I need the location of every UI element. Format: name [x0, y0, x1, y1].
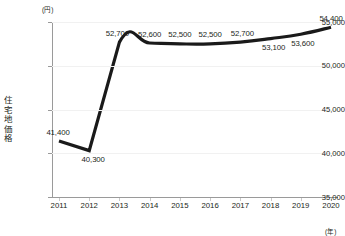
value-label-2018: 53,100: [262, 43, 285, 52]
y-tick-50000: [48, 66, 52, 67]
value-label-2011: 41,400: [46, 128, 69, 137]
y-tick-40000: [48, 153, 52, 154]
x-tick-label-2017: 2017: [232, 201, 249, 210]
x-tick-label-2011: 2011: [51, 201, 68, 210]
value-label-2012: 40,300: [82, 155, 105, 164]
y-tick-label-45000: 45,000: [299, 105, 345, 114]
y-tick-45000: [48, 110, 52, 111]
x-tick-label-2018: 2018: [262, 201, 279, 210]
x-tick-label-2016: 2016: [201, 201, 218, 210]
value-label-2014: 52,600: [138, 30, 161, 39]
x-tick-label-2012: 2012: [81, 201, 98, 210]
line-chart: (円) (年) 住宅地価格 35,00040,00045,00050,00055…: [0, 0, 345, 236]
gridline-55000: [52, 22, 338, 23]
y-tick-55000: [48, 22, 52, 23]
x-tick-label-2014: 2014: [141, 201, 158, 210]
x-tick-label-2015: 2015: [171, 201, 188, 210]
value-label-2015: 52,500: [168, 30, 191, 39]
x-tick-label-2019: 2019: [292, 201, 309, 210]
y-axis-title-char-4: 格: [2, 134, 14, 144]
x-axis-unit-label: (年): [325, 226, 336, 236]
x-tick-label-2013: 2013: [111, 201, 128, 210]
y-tick-label-40000: 40,000: [299, 149, 345, 158]
gridline-50000: [52, 66, 338, 67]
value-label-2019: 53,600: [291, 39, 314, 48]
value-label-2013: 52,700: [106, 29, 129, 38]
x-tick-label-2020: 2020: [322, 201, 339, 210]
value-label-2016: 52,500: [198, 30, 221, 39]
gridline-45000: [52, 110, 338, 111]
y-axis-title: 住宅地価格: [2, 96, 14, 144]
value-label-2017: 52,700: [231, 29, 254, 38]
y-axis-unit-label: (円): [42, 4, 53, 14]
y-tick-35000: [48, 197, 52, 198]
x-axis-line: [52, 197, 338, 198]
gridline-40000: [52, 153, 338, 154]
y-tick-label-50000: 50,000: [299, 61, 345, 70]
value-label-2020: 54,400: [319, 14, 342, 23]
